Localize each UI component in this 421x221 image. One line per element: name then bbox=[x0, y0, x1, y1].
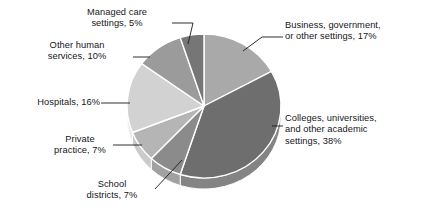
pie-label-colleges: Colleges, universities, and other academ… bbox=[285, 113, 419, 147]
pie-label-managed-care: Managed care settings, 5% bbox=[62, 7, 172, 30]
pie-label-other-human: Other human services, 10% bbox=[22, 40, 132, 63]
pie-label-business: Business, government, or other settings,… bbox=[285, 20, 417, 43]
pie-label-private-practice: Private practice, 7% bbox=[30, 134, 130, 157]
pie-chart-figure: Business, government, or other settings,… bbox=[0, 0, 421, 221]
pie-label-school-districts: School districts, 7% bbox=[62, 179, 162, 202]
pie-label-hospitals: Hospitals, 16% bbox=[2, 97, 100, 108]
pie-slices-top bbox=[127, 34, 281, 178]
